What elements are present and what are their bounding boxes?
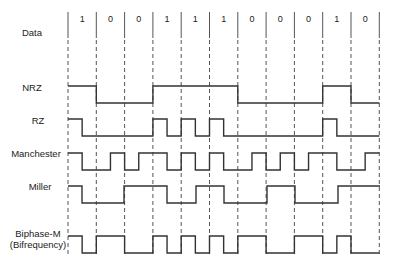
rz-waveform (68, 119, 379, 136)
nrz-waveform (68, 86, 379, 103)
label-manchester: Manchester (8, 148, 64, 159)
data-bit: 1 (327, 14, 347, 24)
data-bit: 0 (270, 14, 290, 24)
miller-waveform (68, 186, 380, 203)
manchester-waveform (68, 153, 379, 170)
label-nrz: NRZ (12, 82, 52, 93)
data-bit: 0 (355, 14, 375, 24)
waveforms (68, 86, 380, 253)
waveform-canvas (0, 0, 398, 266)
data-bit: 1 (157, 14, 177, 24)
label-bifrequency: (Bifrequency) (8, 239, 68, 250)
data-bit: 0 (100, 14, 120, 24)
label-biphase-m: Biphase-M (10, 228, 66, 239)
data-bit: 0 (242, 14, 262, 24)
data-bit: 0 (129, 14, 149, 24)
biphase-m-waveform (68, 236, 379, 253)
data-bit: 1 (214, 14, 234, 24)
label-data: Data (12, 27, 52, 38)
label-miller: Miller (20, 181, 60, 192)
data-bit: 0 (299, 14, 319, 24)
data-bit: 1 (185, 14, 205, 24)
data-bit: 1 (72, 14, 92, 24)
label-rz: RZ (18, 115, 58, 126)
